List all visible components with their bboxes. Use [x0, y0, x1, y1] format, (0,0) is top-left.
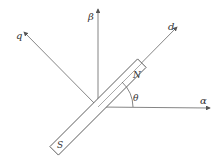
d-label: d [168, 21, 174, 32]
north-pole-label: N [132, 70, 142, 80]
theta-label: θ [133, 93, 139, 103]
beta-label: β [87, 11, 94, 22]
alpha-axis [98, 107, 210, 108]
q-label: q [16, 30, 22, 41]
alpha-label: α [200, 95, 207, 106]
south-pole-label: S [57, 140, 63, 150]
q-axis [24, 32, 98, 107]
dq-frame-diagram: α β q d N S θ [0, 0, 218, 160]
